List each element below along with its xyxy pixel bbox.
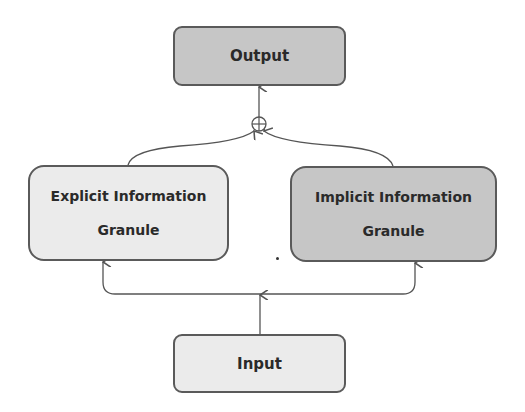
output-label: Output <box>230 47 289 65</box>
implicit-label-line1: Implicit Information <box>315 180 472 214</box>
implicit-label-line2: Granule <box>362 214 424 248</box>
implicit-information-granule-node: Implicit Information Granule <box>290 166 497 262</box>
input-node: Input <box>173 334 346 393</box>
stray-dot <box>276 257 279 260</box>
output-node: Output <box>173 26 346 86</box>
explicit-label-line2: Granule <box>97 213 159 247</box>
explicit-label-line1: Explicit Information <box>51 179 207 213</box>
edge-input-implicit <box>260 263 415 294</box>
sum-operator-icon <box>252 117 266 131</box>
input-label: Input <box>237 355 282 373</box>
edge-explicit-combine <box>128 131 254 165</box>
edge-input-explicit <box>103 262 260 294</box>
explicit-information-granule-node: Explicit Information Granule <box>28 165 229 261</box>
edge-implicit-combine <box>264 131 393 166</box>
